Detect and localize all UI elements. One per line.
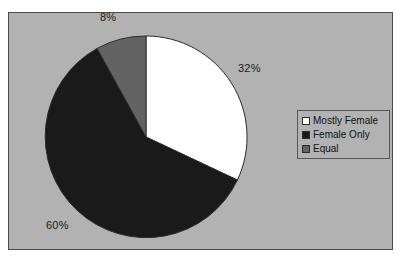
legend: Mostly Female Female Only Equal <box>297 110 390 159</box>
slice-value-label-female-only: 60% <box>46 219 69 231</box>
legend-swatch-icon-female-only <box>302 131 310 139</box>
legend-item-equal[interactable]: Equal <box>302 142 386 155</box>
legend-swatch-icon-mostly-female <box>302 117 310 125</box>
slice-value-label-mostly-female: 32% <box>238 62 261 74</box>
legend-item-mostly-female[interactable]: Mostly Female <box>302 114 386 127</box>
slice-value-label-equal: 8% <box>100 11 116 23</box>
legend-label-mostly-female: Mostly Female <box>313 115 378 126</box>
legend-label-female-only: Female Only <box>313 129 370 140</box>
legend-swatch-icon-equal <box>302 145 310 153</box>
pie-chart-figure: 8% 32% 60% Mostly Female Female Only Equ… <box>0 0 408 264</box>
legend-label-equal: Equal <box>313 143 339 154</box>
legend-item-female-only[interactable]: Female Only <box>302 128 386 141</box>
